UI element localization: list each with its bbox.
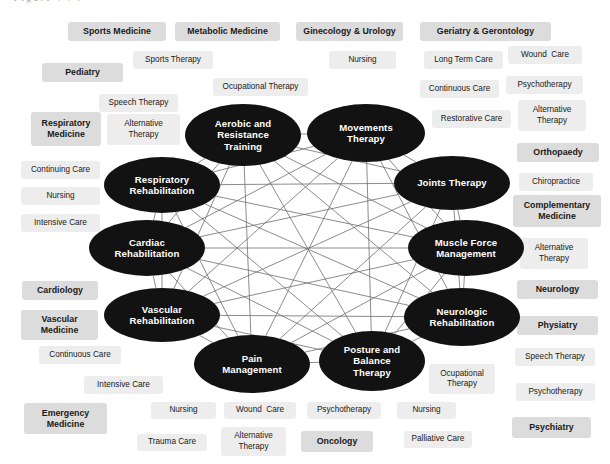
subdiscipline-chip-nursing[interactable]: Nursing [329, 51, 396, 69]
edge [404, 155, 416, 162]
node-aerobic[interactable]: Aerobic andResistanceTraining [185, 104, 301, 166]
edge [367, 162, 371, 331]
specialty-chip-complementary-medicine[interactable]: ComplementaryMedicine [513, 195, 601, 227]
specialty-chip-pediatry[interactable]: Pediatry [42, 63, 123, 82]
specialty-chip-ginecology-urology[interactable]: Ginecology & Urology [296, 22, 403, 41]
edge [215, 196, 412, 237]
clipped-header-text: Figure . . . [0, 0, 610, 7]
subdiscipline-chip-sports-therapy[interactable]: Sports Therapy [133, 51, 213, 69]
edge [200, 336, 213, 343]
subdiscipline-chip-psychotherapy[interactable]: Psychotherapy [516, 383, 595, 401]
node-label: CardiacRehabilitation [95, 237, 199, 260]
specialty-chip-vascular-medicine[interactable]: VascularMedicine [21, 310, 98, 340]
node-label: Muscle ForceManagement [414, 237, 518, 260]
chip-label: Speech Therapy [109, 98, 169, 108]
node-muscle[interactable]: Muscle ForceManagement [408, 220, 524, 276]
specialty-chip-emergency-medicine[interactable]: EmergencyMedicine [24, 403, 107, 434]
subdiscipline-chip-alternative-therapy[interactable]: AlternativeTherapy [520, 238, 588, 269]
node-posture[interactable]: Posture andBalanceTherapy [319, 331, 425, 391]
chip-label: Trauma Care [148, 437, 196, 447]
subdiscipline-chip-continuing-care[interactable]: Continuing Care [21, 161, 100, 179]
node-neurologic[interactable]: NeurologicRehabilitation [404, 288, 520, 346]
specialty-chip-sports-medicine[interactable]: Sports Medicine [68, 22, 166, 41]
specialty-chip-physiatry[interactable]: Physiatry [517, 316, 598, 335]
subdiscipline-chip-trauma-care[interactable]: Trauma Care [137, 434, 207, 451]
chip-label: Neurology [536, 284, 580, 295]
chip-label: Psychotherapy [517, 80, 571, 90]
chip-label: VascularMedicine [41, 314, 79, 335]
chip-label: Sports Medicine [83, 26, 151, 37]
edge [412, 337, 420, 341]
chip-label: Continuing Care [31, 165, 90, 175]
chip-label: Long Term Care [434, 55, 493, 65]
subdiscipline-chip-restorative-care[interactable]: Restorative Care [432, 110, 511, 128]
edge [153, 276, 156, 288]
node-movements[interactable]: MovementsTherapy [307, 104, 425, 162]
subdiscipline-chip-palliative-care[interactable]: Palliative Care [404, 431, 472, 448]
specialty-chip-geriatry-gerontology[interactable]: Geriatry & Gerontology [420, 22, 551, 41]
chip-label: Physiatry [538, 320, 578, 331]
edge [220, 315, 404, 316]
chip-label: Restorative Care [441, 114, 502, 124]
chip-label: Psychiatry [529, 422, 574, 433]
chip-label: Wound Care [236, 405, 284, 415]
edge [200, 194, 399, 236]
chip-label: Orthopaedy [533, 147, 582, 158]
chip-label: Nursing [348, 55, 376, 65]
specialty-chip-orthopaedy[interactable]: Orthopaedy [517, 143, 599, 162]
subdiscipline-chip-psychotherapy[interactable]: Psychotherapy [506, 76, 583, 94]
subdiscipline-chip-alternative-therapy[interactable]: AlternativeTherapy [221, 427, 286, 456]
chip-label: Intensive Care [34, 218, 87, 228]
edge [244, 166, 251, 335]
node-cardiac[interactable]: CardiacRehabilitation [89, 220, 205, 276]
specialty-chip-oncology[interactable]: Oncology [301, 431, 373, 452]
chip-label: Ocupational Therapy [223, 82, 299, 92]
specialty-chip-respiratory-medicine[interactable]: RespiratoryMedicine [31, 112, 101, 146]
node-joints[interactable]: Joints Therapy [394, 156, 510, 210]
specialty-chip-cardiology[interactable]: Cardiology [22, 281, 98, 300]
edge [464, 276, 465, 288]
chip-label: ComplementaryMedicine [524, 200, 590, 221]
subdiscipline-chip-nursing[interactable]: Nursing [151, 402, 216, 419]
chip-label: Psychotherapy [317, 405, 371, 415]
node-pain[interactable]: PainManagement [194, 335, 310, 393]
chip-label: Oncology [317, 436, 358, 447]
chip-label: Wound Care [521, 50, 569, 60]
subdiscipline-chip-speech-therapy[interactable]: Speech Therapy [515, 348, 595, 366]
subdiscipline-chip-speech-therapy[interactable]: Speech Therapy [99, 94, 178, 112]
subdiscipline-chip-chiropractice[interactable]: Chiropractice [519, 173, 593, 191]
subdiscipline-chip-continuous-care[interactable]: Continuous Care [39, 346, 121, 364]
chip-label: AlternativeTherapy [124, 119, 163, 139]
subdiscipline-chip-intensive-care[interactable]: Intensive Care [21, 214, 100, 232]
subdiscipline-chip-psychotherapy[interactable]: Psychotherapy [307, 402, 381, 419]
specialty-chip-psychiatry[interactable]: Psychiatry [512, 417, 591, 438]
subdiscipline-chip-alternative-therapy[interactable]: AlternativeTherapy [518, 100, 586, 131]
subdiscipline-chip-nursing[interactable]: Nursing [21, 187, 100, 205]
subdiscipline-chip-alternative-therapy[interactable]: AlternativeTherapy [107, 114, 180, 145]
subdiscipline-chip-ocupational-therapy[interactable]: OcupationalTherapy [429, 364, 495, 394]
subdiscipline-chip-long-term-care[interactable]: Long Term Care [424, 51, 503, 69]
chip-label: Nursing [412, 405, 440, 415]
node-label: NeurologicRehabilitation [410, 306, 514, 329]
subdiscipline-chip-continuous-care[interactable]: Continuous Care [420, 80, 499, 98]
chip-label: AlternativeTherapy [533, 105, 572, 125]
chip-label: OcupationalTherapy [440, 369, 484, 389]
edge [200, 260, 409, 306]
specialty-chip-neurology[interactable]: Neurology [517, 280, 598, 299]
node-vascular[interactable]: VascularRehabilitation [104, 288, 220, 342]
subdiscipline-chip-intensive-care[interactable]: Intensive Care [84, 376, 163, 394]
node-respiratory[interactable]: RespiratoryRehabilitation [104, 157, 220, 213]
subdiscipline-chip-ocupational-therapy[interactable]: Ocupational Therapy [213, 78, 308, 96]
node-label: Joints Therapy [400, 177, 504, 188]
chip-label: AlternativeTherapy [535, 243, 574, 263]
chip-label: Metabolic Medicine [187, 26, 268, 37]
chip-label: Nursing [169, 405, 197, 415]
subdiscipline-chip-wound-care[interactable]: Wound Care [224, 402, 296, 419]
specialty-chip-metabolic-medicine[interactable]: Metabolic Medicine [175, 22, 280, 41]
subdiscipline-chip-wound-care[interactable]: Wound Care [508, 46, 582, 64]
subdiscipline-chip-nursing[interactable]: Nursing [397, 402, 456, 419]
node-label: MovementsTherapy [313, 122, 419, 145]
chip-label: Chiropractice [532, 177, 580, 187]
chip-label: Ginecology & Urology [303, 26, 395, 37]
chip-label: Continuous Care [49, 350, 110, 360]
